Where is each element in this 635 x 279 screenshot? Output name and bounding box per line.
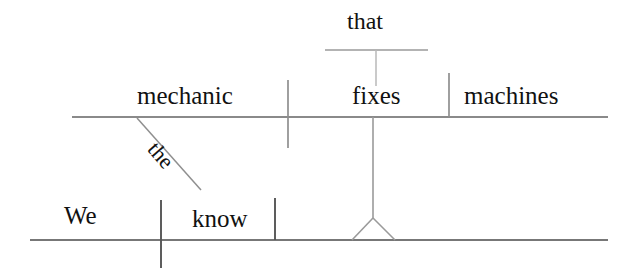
clause-tripod-right-line	[373, 218, 395, 240]
word-we: We	[64, 203, 97, 228]
diagram-lines-svg	[0, 0, 635, 279]
word-that: that	[347, 9, 383, 33]
word-fixes: fixes	[352, 83, 401, 108]
clause-tripod-left-line	[352, 218, 373, 240]
word-mechanic: mechanic	[137, 83, 233, 108]
word-know: know	[192, 206, 248, 231]
sentence-diagram: that mechanic fixes machines the We know	[0, 0, 635, 279]
word-machines: machines	[464, 83, 558, 108]
